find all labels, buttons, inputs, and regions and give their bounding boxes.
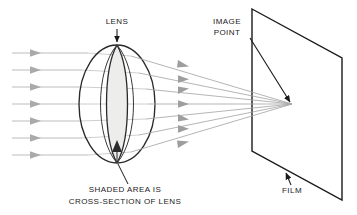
cross-section-caption-line2: CROSS-SECTION OF LENS: [69, 197, 182, 206]
lens-label-group: LENS: [106, 17, 129, 42]
ray-arrowhead-icon: [30, 66, 41, 74]
ray-arrowhead-icon: [30, 151, 41, 159]
ray-arrowhead-icon: [30, 134, 41, 142]
ray-arrowhead-icon: [30, 117, 41, 125]
ray-arrowhead-icon: [30, 83, 41, 91]
incoming-rays-group: [12, 53, 88, 155]
ray-arrowhead-icon: [30, 49, 41, 57]
ray-arrowhead-icon: [178, 100, 189, 108]
ray-arrowhead-icon: [177, 60, 189, 68]
lens-label: LENS: [106, 17, 129, 26]
ray-arrowhead-icon: [30, 100, 41, 108]
film-plane-quad: [252, 9, 342, 200]
film-label: FILM: [282, 186, 302, 195]
cross-section-caption-leader: [118, 164, 128, 184]
film-label-leader-arrow: [286, 173, 291, 185]
ray-arrowhead-icon: [177, 140, 189, 148]
converging-ray-arrowheads: [177, 60, 189, 148]
lens-diagram-canvas: LENS IMAGE POINT FILM SHADED AREA IS CRO…: [0, 0, 357, 215]
image-point-label-line1: IMAGE: [213, 17, 241, 26]
image-point-label-line2: POINT: [214, 28, 241, 37]
cross-section-caption-line1: SHADED AREA IS: [89, 185, 162, 194]
film-plane: [252, 9, 342, 200]
lens-diagram-figure: LENS IMAGE POINT FILM SHADED AREA IS CRO…: [0, 0, 357, 215]
incoming-ray-arrowheads: [30, 49, 41, 159]
